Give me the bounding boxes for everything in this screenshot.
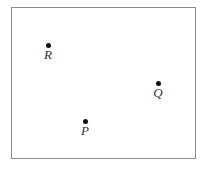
diagram-frame — [11, 7, 196, 159]
point-r-label: R — [38, 48, 58, 61]
point-q-label: Q — [148, 86, 168, 99]
point-p-label: P — [75, 124, 95, 137]
